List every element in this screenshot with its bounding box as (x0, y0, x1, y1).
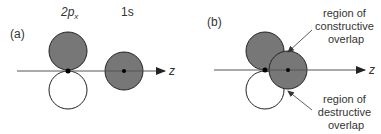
orbital-1s-label: 1s (121, 5, 134, 19)
orbital-2px-label: 2px (60, 5, 79, 21)
panel-b: (b) z region of constructive overlap reg… (207, 7, 377, 131)
panel-a: (a) 2px 1s z (10, 5, 175, 109)
constructive-arrow (288, 30, 312, 52)
axis-label-z-a: z (168, 64, 175, 78)
destructive-arrow (288, 91, 312, 110)
s-nucleus-dot-b (286, 68, 290, 72)
axis-label-z-b: z (368, 63, 375, 77)
p-nucleus-dot (66, 69, 71, 74)
p-orbital-negative-lobe (49, 71, 87, 109)
constructive-overlap-label: region of constructive overlap (315, 7, 377, 45)
orbital-overlap-diagram: (a) 2px 1s z (b) z region of constructiv… (0, 0, 381, 134)
panel-b-label: (b) (207, 15, 222, 29)
p-nucleus-dot-b (263, 68, 268, 73)
panel-a-label: (a) (10, 27, 25, 41)
s-nucleus-dot (122, 69, 126, 73)
p-orbital-positive-lobe (49, 32, 87, 70)
destructive-overlap-label: region of destructive overlap (318, 93, 374, 131)
